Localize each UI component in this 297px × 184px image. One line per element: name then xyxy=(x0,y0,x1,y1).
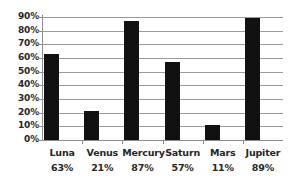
bar xyxy=(44,54,59,140)
y-axis-tick xyxy=(38,126,42,127)
category-name: Jupiter xyxy=(243,146,283,161)
x-axis-category-mars: Mars11% xyxy=(203,146,243,175)
bar xyxy=(84,111,99,140)
y-axis-tick xyxy=(38,85,42,86)
bar xyxy=(205,125,220,140)
x-axis-category-saturn: Saturn57% xyxy=(163,146,203,175)
y-axis-tick xyxy=(38,17,42,18)
y-axis-tick-label: 50% xyxy=(0,67,39,76)
bar xyxy=(245,18,260,140)
category-value: 11% xyxy=(203,161,243,176)
category-name: Luna xyxy=(42,146,82,161)
category-name: Saturn xyxy=(163,146,203,161)
x-axis-category-venus: Venus21% xyxy=(82,146,122,175)
y-axis-tick xyxy=(38,31,42,32)
category-value: 63% xyxy=(42,161,82,176)
category-name: Mercury xyxy=(122,146,162,161)
x-axis-tick xyxy=(82,140,83,144)
y-axis-tick-labels: 0%10%20%30%40%50%60%70%80%90% xyxy=(0,17,39,140)
x-axis-category-jupiter: Jupiter89% xyxy=(243,146,283,175)
y-axis-tick xyxy=(38,72,42,73)
plot-area xyxy=(42,17,283,140)
y-axis-tick xyxy=(38,58,42,59)
category-value: 21% xyxy=(82,161,122,176)
x-axis-tick xyxy=(122,140,123,144)
bar-chart: 0%10%20%30%40%50%60%70%80%90% Luna63%Ven… xyxy=(0,0,297,184)
category-value: 89% xyxy=(243,161,283,176)
category-value: 87% xyxy=(122,161,162,176)
bar xyxy=(124,21,139,140)
y-axis-tick-label: 40% xyxy=(0,80,39,89)
x-axis-category-luna: Luna63% xyxy=(42,146,82,175)
y-axis-tick-label: 20% xyxy=(0,108,39,117)
y-axis-tick-label: 30% xyxy=(0,94,39,103)
y-axis-tick-label: 60% xyxy=(0,53,39,62)
category-name: Mars xyxy=(203,146,243,161)
y-axis-tick xyxy=(38,99,42,100)
y-axis-tick xyxy=(38,113,42,114)
y-axis-tick-label: 70% xyxy=(0,39,39,48)
bar xyxy=(165,62,180,140)
y-axis-tick-label: 90% xyxy=(0,12,39,21)
y-axis-tick-label: 0% xyxy=(0,135,39,144)
x-axis-tick xyxy=(243,140,244,144)
x-axis-category-mercury: Mercury87% xyxy=(122,146,162,175)
y-axis-tick-label: 10% xyxy=(0,121,39,130)
category-value: 57% xyxy=(163,161,203,176)
x-axis-tick xyxy=(203,140,204,144)
y-axis-tick xyxy=(38,44,42,45)
category-name: Venus xyxy=(82,146,122,161)
x-axis-tick xyxy=(163,140,164,144)
y-axis-tick-label: 80% xyxy=(0,26,39,35)
